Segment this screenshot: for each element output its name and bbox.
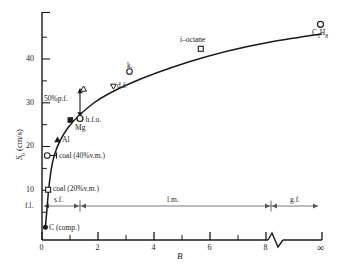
point-label-mg: Mg xyxy=(75,124,85,132)
x-tick-label-4: 4 xyxy=(152,244,156,252)
marker-mg xyxy=(68,117,74,123)
x-tick-label-2: 2 xyxy=(96,244,100,252)
y-axis-minor-ticks xyxy=(42,37,47,212)
point-label-50pf: 50%p.f. xyxy=(44,95,68,103)
x-tick-label-8: 8 xyxy=(264,244,268,252)
chart-figure: Sb (cm/s) B 10 20 30 40 0 2 4 6 8 ∞ C (c… xyxy=(0,0,338,267)
y-tick-label-30: 30 xyxy=(26,99,34,107)
point-label-al: Al xyxy=(62,136,70,144)
x-tick-label-6: 6 xyxy=(208,244,212,252)
marker-coal20 xyxy=(46,187,51,192)
marker-c-comp xyxy=(43,225,48,230)
x-axis-title: B xyxy=(177,252,183,261)
y-axis-symbol: S xyxy=(14,156,24,160)
x-tick-label-infinity: ∞ xyxy=(317,243,324,253)
marker-hfo xyxy=(77,116,83,122)
y-tick-label-10: 10 xyxy=(26,186,34,194)
marker-ioctane xyxy=(198,46,203,51)
c3h8-8: 8 xyxy=(325,33,328,39)
y-tick-label-20: 20 xyxy=(26,142,34,150)
marker-k xyxy=(127,69,133,75)
y-axis-subscript: b xyxy=(20,153,26,156)
point-label-c-comp: C (comp.) xyxy=(49,224,79,232)
x-axis xyxy=(42,232,322,247)
zone-label-sf: s.f. xyxy=(54,196,63,204)
point-label-k: k. xyxy=(127,62,133,70)
zone-label-fl: f.l. xyxy=(25,202,33,210)
point-label-df: d.f. xyxy=(117,82,127,90)
marker-df xyxy=(111,84,117,89)
marker-al xyxy=(54,137,61,143)
y-tick-label-40: 40 xyxy=(26,55,34,63)
point-label-ioctane: i–octane xyxy=(180,36,205,44)
y-axis-units: (cm/s) xyxy=(14,129,24,151)
zone-axis xyxy=(44,201,318,212)
error-bar-50pf xyxy=(77,89,82,118)
data-curve xyxy=(45,34,321,229)
y-axis-title: Sb (cm/s) xyxy=(14,129,26,160)
marker-c3h8 xyxy=(318,21,324,27)
point-label-c3h8: C3H8 xyxy=(312,29,328,39)
zone-label-lm: l.m. xyxy=(167,196,179,204)
point-label-hfo: h.f.o. xyxy=(86,116,102,124)
point-label-coal40: coal (40%v.m.) xyxy=(59,152,105,160)
marker-50pf xyxy=(81,86,87,91)
point-label-coal20: coal (20%v.m.) xyxy=(53,185,99,193)
marker-coal40 xyxy=(44,153,50,159)
zone-label-gf: g.f. xyxy=(290,196,300,204)
x-tick-label-0: 0 xyxy=(40,244,44,252)
